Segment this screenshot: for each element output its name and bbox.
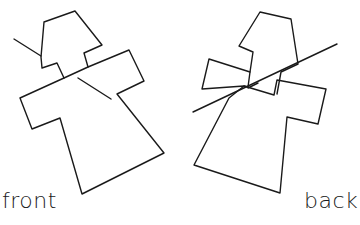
back-figure [193, 12, 337, 193]
back-rod [193, 44, 337, 112]
front-inner-line [78, 78, 111, 99]
back-body-outline [202, 59, 250, 89]
back-body-main [194, 80, 326, 193]
front-rod [14, 39, 41, 56]
front-figure [14, 11, 164, 194]
front-figure-outline [20, 11, 164, 194]
front-shoulder-line [64, 67, 88, 78]
back-label: back [304, 188, 358, 213]
front-label: front [2, 188, 57, 213]
